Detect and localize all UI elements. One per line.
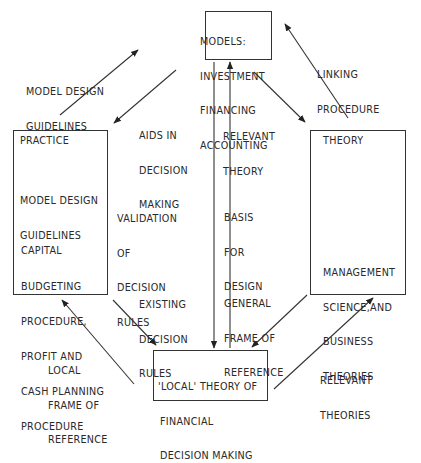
practice-item-line: BUDGETING: [21, 281, 104, 293]
theory-item-line: MANAGEMENT: [323, 267, 395, 279]
label-line: RULES: [139, 368, 188, 380]
label-model-design-guidelines: MODEL DESIGN GUIDELINES: [26, 63, 104, 144]
label-line: RELEVANT: [320, 375, 372, 387]
label-line: AIDS IN: [139, 130, 188, 142]
label-linking-procedure: LINKING PROCEDURE: [317, 46, 380, 127]
label-line: OF: [117, 248, 177, 260]
theory-title: THEORY: [323, 135, 363, 147]
models-line: MODELS:: [200, 36, 285, 48]
label-existing-decision-rules: EXISTING DECISION RULES: [139, 276, 188, 391]
local-line: DECISION MAKING: [158, 450, 257, 462]
label-line: FOR: [224, 247, 263, 259]
label-line: DECISION: [139, 165, 188, 177]
label-line: VALIDATION: [117, 213, 177, 225]
label-line: EXISTING: [139, 299, 188, 311]
label-line: BASIS: [224, 212, 263, 224]
label-line: GENERAL: [224, 298, 284, 310]
label-local-frame-of-reference: LOCAL FRAME OF REFERENCE: [48, 342, 108, 457]
label-line: THEORY: [223, 166, 275, 178]
label-line: FRAME OF: [48, 400, 108, 412]
theory-item-line: SCIENCE,AND: [323, 302, 395, 314]
local-line: FINANCIAL: [158, 416, 257, 428]
label-line: MODEL DESIGN: [26, 86, 104, 98]
models-line: INVESTMENT: [200, 71, 285, 83]
label-line: REFERENCE: [48, 434, 108, 446]
label-line: LINKING: [317, 69, 380, 81]
label-relevant-theory: RELEVANT THEORY: [223, 108, 275, 189]
label-line: FRAME OF: [224, 333, 284, 345]
theory-item-line: BUSINESS: [323, 336, 395, 348]
label-line: LOCAL: [48, 365, 108, 377]
label-line: THEORIES: [320, 410, 372, 422]
practice-item-line: MODEL DESIGN: [20, 195, 98, 207]
label-relevant-theories: RELEVANT THEORIES: [320, 352, 372, 433]
practice-item-line: CAPITAL: [21, 245, 104, 257]
label-line: RELEVANT: [223, 131, 275, 143]
practice-item-line: PROCEDURE,: [21, 316, 104, 328]
label-line: GUIDELINES: [26, 121, 104, 133]
label-general-frame-of-reference: GENERAL FRAME OF REFERENCE: [224, 275, 284, 390]
label-line: PROCEDURE: [317, 104, 380, 116]
label-line: DECISION: [139, 334, 188, 346]
label-line: REFERENCE: [224, 367, 284, 379]
